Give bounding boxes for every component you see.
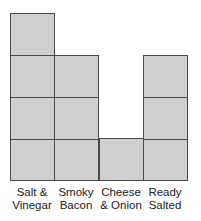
block [10,97,55,140]
category-label: SmokyBacon [51,186,101,212]
block [99,138,144,181]
category-label-line: Ready [140,186,190,199]
block [143,97,188,140]
category-label-line: Salt & [7,186,57,199]
category-label: Salt &Vinegar [7,186,57,212]
category-label: Cheese& Onion [96,186,146,212]
block [143,55,188,98]
block [10,138,55,181]
category-label-line: Bacon [51,199,101,212]
block-graph: Salt &VinegarSmokyBaconCheese& OnionRead… [0,0,201,221]
block [10,55,55,98]
category-label-line: Smoky [51,186,101,199]
category-label: ReadySalted [140,186,190,212]
category-label-line: Salted [140,199,190,212]
category-label-line: & Onion [96,199,146,212]
block [143,138,188,181]
category-label-line: Cheese [96,186,146,199]
block [54,138,99,181]
block [10,13,55,56]
block [54,55,99,98]
category-label-line: Vinegar [7,199,57,212]
block [54,97,99,140]
